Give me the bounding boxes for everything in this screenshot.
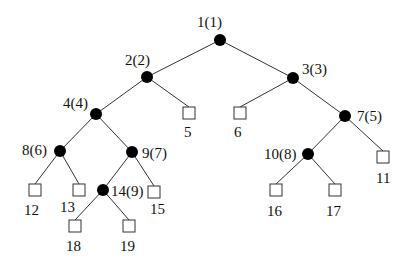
node-label-1: 1(1): [197, 14, 222, 31]
edge-2-5: [147, 77, 189, 107]
node-label-9: 9(7): [142, 145, 167, 162]
internal-node-8: [54, 145, 66, 157]
node-label-17: 17: [326, 203, 342, 219]
internal-node-14: [97, 184, 109, 196]
leaf-node-15: [148, 186, 160, 198]
node-label-18: 18: [66, 238, 81, 254]
leaf-node-6: [234, 107, 246, 119]
edge-10-17: [308, 154, 335, 184]
internal-node-7: [339, 110, 351, 122]
tree-diagram: 1(1)2(2)3(3)4(4)567(5)8(6)9(7)10(8)11121…: [0, 0, 410, 269]
internal-node-3: [287, 72, 299, 84]
node-label-4: 4(4): [63, 95, 88, 112]
node-label-2: 2(2): [125, 52, 150, 69]
node-label-6: 6: [234, 124, 242, 140]
internal-node-4: [90, 108, 102, 120]
node-label-12: 12: [24, 202, 39, 218]
edge-4-8: [60, 114, 96, 151]
node-label-8: 8(6): [22, 142, 47, 159]
leaf-node-16: [270, 184, 282, 196]
edge-1-2: [147, 40, 220, 77]
node-label-14: 14(9): [111, 183, 144, 200]
node-label-16: 16: [267, 203, 283, 219]
node-label-13: 13: [60, 199, 75, 215]
leaf-node-13: [73, 184, 85, 196]
internal-node-2: [141, 71, 153, 83]
leaf-node-19: [123, 220, 135, 232]
edge-7-10: [308, 116, 345, 154]
edge-3-7: [293, 78, 345, 116]
node-label-11: 11: [376, 170, 390, 186]
leaf-node-17: [329, 184, 341, 196]
edge-1-3: [220, 40, 293, 78]
internal-node-9: [126, 146, 138, 158]
edge-3-6: [240, 78, 293, 107]
edge-4-9: [96, 114, 132, 152]
node-label-15: 15: [150, 201, 165, 217]
leaf-node-11: [377, 151, 389, 163]
leaf-node-12: [29, 184, 41, 196]
node-label-3: 3(3): [302, 61, 327, 78]
node-label-19: 19: [120, 238, 135, 254]
internal-node-10: [302, 148, 314, 160]
node-label-5: 5: [184, 124, 192, 140]
leaf-node-18: [69, 220, 81, 232]
node-label-10: 10(8): [264, 146, 297, 163]
internal-node-1: [214, 34, 226, 46]
edge-2-4: [96, 77, 147, 114]
leaf-node-5: [183, 107, 195, 119]
node-label-7: 7(5): [357, 108, 382, 125]
